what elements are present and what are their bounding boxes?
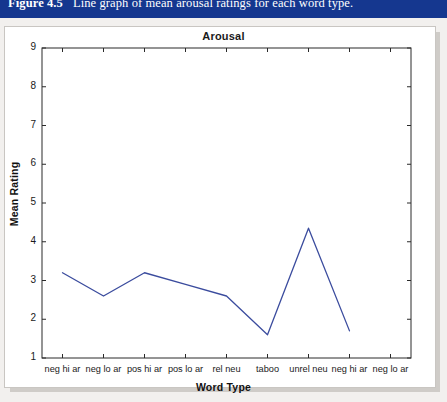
y-tick-label: 6	[14, 157, 36, 168]
plot-frame	[42, 48, 411, 358]
arousal-line-chart	[0, 0, 447, 402]
x-tick-label: neg hi ar	[332, 364, 368, 374]
y-tick-label: 9	[14, 41, 36, 52]
x-tick-label: unrel neu	[289, 364, 327, 374]
y-tick-label: 5	[14, 196, 36, 207]
y-tick-label: 8	[14, 80, 36, 91]
y-tick-label: 3	[14, 274, 36, 285]
x-tick-label: neg hi ar	[45, 364, 81, 374]
x-tick-label: taboo	[256, 364, 279, 374]
x-axis-title: Word Type	[0, 381, 447, 393]
data-series-line-0	[63, 228, 350, 335]
x-tick-label: neg lo ar	[86, 364, 122, 374]
y-tick-label: 1	[14, 351, 36, 362]
y-tick-label: 4	[14, 235, 36, 246]
x-tick-label: pos hi ar	[127, 364, 162, 374]
x-tick-label: pos lo ar	[168, 364, 203, 374]
x-tick-label: rel neu	[212, 364, 240, 374]
y-tick-label: 2	[14, 312, 36, 323]
x-tick-label: neg lo ar	[373, 364, 409, 374]
figure-page: Figure 4.5Line graph of mean arousal rat…	[0, 0, 447, 402]
y-tick-label: 7	[14, 119, 36, 130]
